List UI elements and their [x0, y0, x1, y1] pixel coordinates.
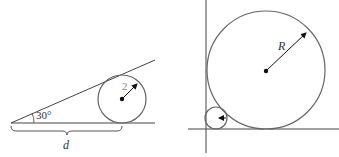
distance-brace — [11, 126, 122, 135]
large-radius-arrow — [267, 33, 306, 70]
angle-label: 30° — [36, 109, 51, 121]
distance-label: d — [63, 138, 69, 153]
angle-arc — [32, 113, 34, 123]
large-radius-label: R — [278, 39, 285, 54]
diagram-canvas — [0, 0, 339, 157]
right-figure — [188, 0, 339, 153]
left-figure — [11, 60, 155, 135]
radius-label: 2 — [122, 80, 128, 92]
